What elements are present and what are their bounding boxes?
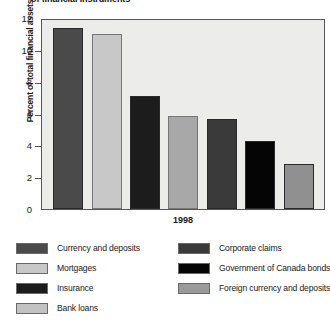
legend: Currency and depositsMortgagesInsuranceB… [0, 238, 329, 322]
legend-item[interactable]: Foreign currency and deposits [178, 278, 329, 298]
y-tick-label: 10 [21, 45, 32, 56]
x-axis-label: 1998 [41, 215, 325, 225]
y-tick-label: 6 [27, 109, 32, 120]
legend-swatch [178, 243, 210, 254]
bar-slot [280, 20, 318, 209]
legend-item[interactable]: Government of Canada bonds [178, 258, 329, 278]
legend-item[interactable]: Mortgages [16, 258, 176, 278]
bar [92, 34, 122, 209]
legend-item[interactable]: Insurance [16, 278, 176, 298]
legend-label: Bank loans [57, 303, 98, 313]
legend-swatch [16, 243, 48, 254]
legend-label: Corporate claims [219, 243, 282, 253]
bar [207, 119, 237, 209]
bar-slot [203, 20, 241, 209]
y-tick-label: 0 [27, 204, 32, 215]
legend-column-left: Currency and depositsMortgagesInsuranceB… [16, 238, 176, 318]
legend-swatch [16, 283, 48, 294]
bar-slot [126, 20, 164, 209]
legend-label: Currency and deposits [57, 243, 140, 253]
bar-slot [87, 20, 125, 209]
legend-label: Government of Canada bonds [219, 263, 330, 273]
bar-slot [241, 20, 279, 209]
bar [130, 96, 160, 209]
bar [53, 28, 83, 209]
legend-swatch [16, 263, 48, 274]
legend-swatch [16, 303, 48, 314]
legend-column-right: Corporate claimsGovernment of Canada bon… [178, 238, 329, 298]
legend-swatch [178, 263, 210, 274]
bar [284, 164, 314, 209]
legend-label: Mortgages [57, 263, 96, 273]
legend-label: Insurance [57, 283, 93, 293]
bar [245, 141, 275, 209]
y-tick-label: 2 [27, 172, 32, 183]
y-tick-label: 12 [21, 13, 32, 24]
y-tick-label: 8 [27, 77, 32, 88]
bar-slot [49, 20, 87, 209]
legend-item[interactable]: Currency and deposits [16, 238, 176, 258]
chart-title: of financial instruments [31, 0, 130, 4]
bar-slot [164, 20, 202, 209]
bar-series [42, 20, 324, 209]
y-tick-label: 4 [27, 140, 32, 151]
legend-swatch [178, 283, 210, 294]
bar [168, 116, 198, 209]
plot-area [41, 19, 325, 210]
legend-item[interactable]: Corporate claims [178, 238, 329, 258]
legend-label: Foreign currency and deposits [219, 283, 330, 293]
legend-item[interactable]: Bank loans [16, 298, 176, 318]
